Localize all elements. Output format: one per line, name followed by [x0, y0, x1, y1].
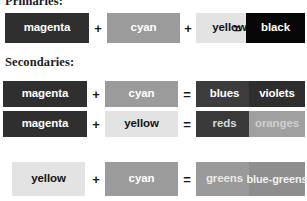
equals-operator: = — [178, 81, 196, 107]
color-swatch-cyan: cyan — [105, 81, 178, 107]
swatch-label: reds — [213, 118, 237, 130]
plus-operator: + — [87, 162, 105, 196]
color-swatch-black: black — [246, 13, 305, 43]
swatch-label: cyan — [129, 88, 155, 100]
secondary-row-1: magentayellowredsoranges+= — [0, 111, 307, 137]
plus-operator: + — [87, 81, 105, 107]
swatch-label: cyan — [131, 22, 157, 34]
color-swatch-magenta: magenta — [5, 13, 89, 43]
swatch-label: magenta — [22, 88, 69, 100]
secondaries-heading: Secondaries: — [5, 55, 74, 70]
swatch-label: magenta — [24, 22, 71, 34]
color-swatch-blues: blues — [196, 81, 253, 107]
color-swatch-blue-greens: blue-greens — [249, 162, 305, 196]
swatch-label: violets — [259, 88, 295, 100]
swatch-label: yellow — [124, 118, 159, 130]
equals-operator: = — [178, 162, 196, 196]
swatch-label-line-0: blue- — [246, 174, 272, 185]
color-swatch-magenta: magenta — [3, 81, 87, 107]
primaries-heading: Primaries: — [5, 0, 63, 9]
equals-operator: = — [228, 13, 246, 43]
swatch-label: greens — [206, 173, 243, 185]
color-swatch-cyan: cyan — [107, 13, 180, 43]
color-swatch-greens: greens — [196, 162, 253, 196]
secondary-row-2: yellowcyangreensblue-greens+= — [0, 162, 307, 196]
equals-operator: = — [178, 111, 196, 137]
plus-operator: + — [89, 13, 107, 43]
color-swatch-cyan: cyan — [105, 162, 178, 196]
color-swatch-violets: violets — [249, 81, 305, 107]
color-swatch-oranges: oranges — [249, 111, 305, 137]
color-swatch-magenta: magenta — [3, 111, 87, 137]
plus-operator: + — [180, 13, 196, 43]
swatch-label: black — [261, 22, 290, 34]
swatch-label: blues — [210, 88, 240, 100]
color-swatch-yellow: yellow — [12, 162, 85, 196]
primaries-row: magentacyanyellowblack++= — [0, 13, 307, 43]
swatch-label: yellow — [31, 173, 66, 185]
color-swatch-reds: reds — [196, 111, 253, 137]
swatch-label-line-1: greens — [272, 174, 307, 185]
plus-operator: + — [87, 111, 105, 137]
secondary-row-0: magentacyanbluesviolets+= — [0, 81, 307, 107]
swatch-label: cyan — [129, 173, 155, 185]
color-swatch-yellow: yellow — [105, 111, 178, 137]
swatch-label: oranges — [255, 118, 299, 130]
swatch-label: magenta — [22, 118, 69, 130]
